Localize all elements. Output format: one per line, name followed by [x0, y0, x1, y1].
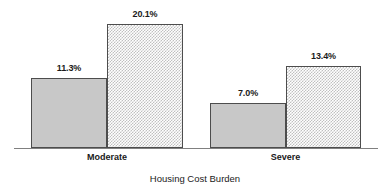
x-axis-title: Housing Cost Burden: [0, 173, 390, 184]
bar-value-label-moderate-series-2: 20.1%: [107, 9, 183, 19]
bar-chart: 11.3% 20.1% 7.0% 13.4% Moderate Severe H…: [0, 0, 390, 195]
bar-value-label-severe-series-2: 13.4%: [286, 51, 361, 61]
bar-severe-series-1[interactable]: [210, 103, 286, 148]
bar-value-label-severe-series-1: 7.0%: [210, 88, 286, 98]
plot-area: 11.3% 20.1% 7.0% 13.4%: [0, 0, 390, 149]
bar-moderate-series-1[interactable]: [31, 78, 107, 148]
bar-severe-series-2[interactable]: [286, 66, 361, 148]
category-label-severe: Severe: [210, 152, 361, 162]
category-label-moderate: Moderate: [31, 152, 183, 162]
bar-moderate-series-2[interactable]: [107, 24, 183, 148]
bar-value-label-moderate-series-1: 11.3%: [31, 63, 107, 73]
x-axis-line: [14, 148, 378, 149]
